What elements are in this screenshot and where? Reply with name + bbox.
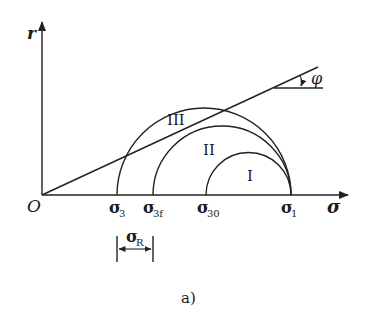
angle-arc-icon bbox=[300, 76, 302, 86]
tick-sigma-3f: σ 3f bbox=[143, 198, 164, 219]
y-axis-label: r bbox=[27, 23, 37, 43]
tick-sigma-3: σ 3 bbox=[109, 198, 125, 219]
x-axis-label: σ bbox=[327, 196, 341, 217]
failure-envelope-line bbox=[42, 67, 318, 195]
svg-text:3: 3 bbox=[119, 208, 125, 219]
svg-text:30: 30 bbox=[207, 208, 220, 219]
figure-caption: a) bbox=[181, 289, 196, 307]
circle-III-label: III bbox=[167, 111, 185, 129]
circle-II bbox=[153, 126, 291, 195]
svg-text:1: 1 bbox=[291, 208, 297, 219]
circle-II-label: II bbox=[203, 141, 215, 159]
svg-text:R: R bbox=[136, 237, 144, 248]
svg-text:3f: 3f bbox=[153, 208, 164, 219]
mohr-circle-diagram: r O σ σ 3 σ 3f σ 30 σ 1 σ R III II I φ a… bbox=[0, 0, 373, 328]
circle-I-label: I bbox=[247, 167, 253, 185]
tick-sigma-30: σ 30 bbox=[197, 198, 220, 219]
tick-sigma-1: σ 1 bbox=[281, 198, 297, 219]
sigma-r-label: σ R bbox=[126, 227, 144, 248]
phi-label: φ bbox=[311, 69, 323, 88]
origin-label: O bbox=[27, 196, 41, 216]
